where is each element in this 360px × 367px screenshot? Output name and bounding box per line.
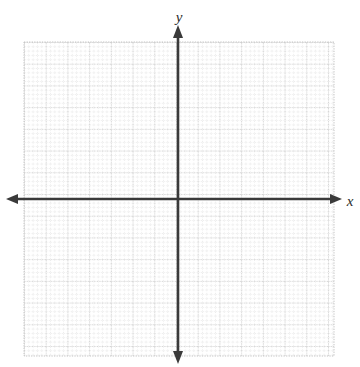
- coordinate-plane-svg: y x: [0, 0, 360, 367]
- y-axis-label: y: [174, 9, 183, 25]
- coordinate-plane-figure: y x: [0, 0, 360, 367]
- x-axis-label: x: [346, 193, 354, 209]
